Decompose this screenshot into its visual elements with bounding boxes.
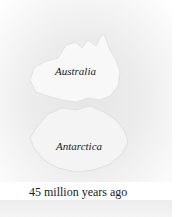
australia-label: Australia <box>55 65 96 77</box>
time-caption: 45 million years ago <box>29 185 127 200</box>
paleogeographic-map: Australia Antarctica <box>0 0 172 182</box>
antarctica-landmass <box>30 106 128 172</box>
bottom-band <box>0 200 172 217</box>
antarctica-label: Antarctica <box>56 140 102 152</box>
continents-illustration <box>0 0 172 182</box>
